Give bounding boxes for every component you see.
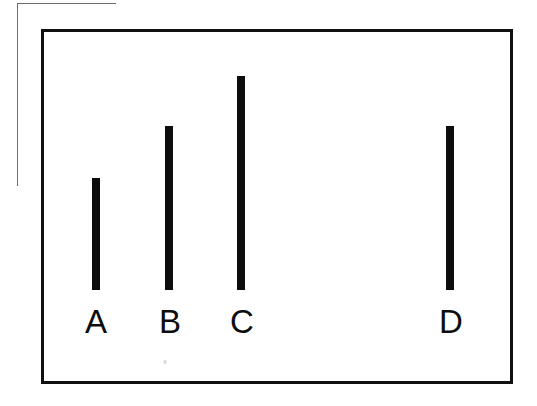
crop-mark-horizontal-line	[17, 3, 116, 4]
figure-canvas: ABCD	[0, 0, 537, 406]
bar-a	[92, 178, 100, 290]
bar-label-c: C	[230, 305, 254, 338]
bar-c	[237, 76, 245, 290]
bar-label-d: D	[439, 305, 463, 338]
bar-label-a: A	[85, 305, 107, 338]
speck-artifact	[163, 360, 167, 364]
bar-label-b: B	[159, 305, 181, 338]
bar-b	[165, 126, 173, 290]
bar-d	[446, 126, 454, 290]
crop-mark-vertical-line	[17, 3, 18, 186]
